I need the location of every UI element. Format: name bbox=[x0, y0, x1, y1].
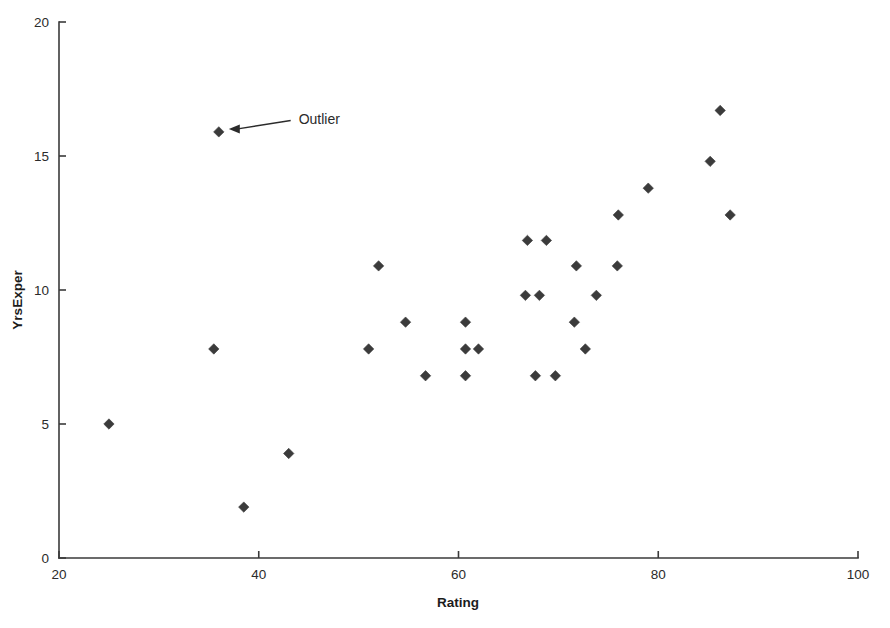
data-point-group bbox=[104, 105, 736, 512]
y-tick-label: 10 bbox=[34, 283, 49, 298]
data-point-marker bbox=[550, 371, 560, 381]
data-point-marker bbox=[284, 448, 294, 458]
data-point-marker bbox=[569, 317, 579, 327]
data-point-marker bbox=[591, 290, 601, 300]
data-point-marker bbox=[460, 317, 470, 327]
data-point-marker bbox=[239, 502, 249, 512]
data-point-marker bbox=[460, 371, 470, 381]
data-point-marker bbox=[473, 344, 483, 354]
y-axis-title: YrsExper bbox=[10, 270, 25, 330]
data-point-marker bbox=[534, 290, 544, 300]
x-tick-label: 80 bbox=[651, 567, 666, 582]
x-tick-label: 20 bbox=[51, 567, 66, 582]
y-axis-group: 05101520 YrsExper bbox=[10, 15, 66, 566]
x-tick-label: 100 bbox=[847, 567, 870, 582]
data-point-marker bbox=[209, 344, 219, 354]
data-point-marker bbox=[214, 127, 224, 137]
data-point-marker bbox=[612, 261, 622, 271]
data-point-marker bbox=[580, 344, 590, 354]
data-point-marker bbox=[530, 371, 540, 381]
data-point-marker bbox=[363, 344, 373, 354]
data-point-marker bbox=[613, 210, 623, 220]
x-tick-label: 40 bbox=[251, 567, 266, 582]
data-point-marker bbox=[400, 317, 410, 327]
annotation-label-outlier: Outlier bbox=[299, 111, 341, 127]
data-point-marker bbox=[420, 371, 430, 381]
data-point-marker bbox=[460, 344, 470, 354]
y-tick-label: 20 bbox=[34, 15, 49, 30]
annotation-group: Outlier bbox=[229, 111, 340, 133]
annotation-arrow-line bbox=[238, 120, 291, 128]
data-point-marker bbox=[725, 210, 735, 220]
data-point-marker bbox=[571, 261, 581, 271]
data-point-marker bbox=[522, 235, 532, 245]
data-point-marker bbox=[373, 261, 383, 271]
x-axis-title: Rating bbox=[437, 595, 479, 610]
x-tick-label: 60 bbox=[451, 567, 466, 582]
data-point-marker bbox=[705, 156, 715, 166]
y-tick-group: 05101520 bbox=[34, 15, 66, 566]
data-point-marker bbox=[520, 290, 530, 300]
data-point-marker bbox=[715, 105, 725, 115]
chart-canvas: 05101520 YrsExper 20406080100 Rating Out… bbox=[0, 0, 890, 628]
annotation-arrow-head bbox=[229, 124, 240, 133]
data-point-marker bbox=[104, 419, 114, 429]
x-axis-group: 20406080100 Rating bbox=[51, 551, 869, 610]
data-point-marker bbox=[541, 235, 551, 245]
data-point-marker bbox=[643, 183, 653, 193]
x-tick-group: 20406080100 bbox=[51, 551, 869, 582]
y-tick-label: 5 bbox=[41, 417, 49, 432]
scatter-chart: 05101520 YrsExper 20406080100 Rating Out… bbox=[0, 0, 890, 628]
y-tick-label: 15 bbox=[34, 149, 49, 164]
y-tick-label: 0 bbox=[41, 551, 49, 566]
